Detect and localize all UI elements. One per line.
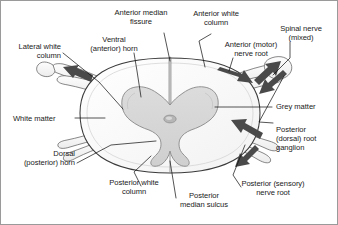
label-anterior-motor-nerve-root: Anterior (motor) nerve root	[225, 40, 277, 58]
label-posterior-root-ganglion: Posterior (dorsal) root ganglion	[276, 125, 316, 153]
label-posterior-sensory-nerve-root: Posterior (sensory) nerve root	[241, 179, 304, 197]
label-lateral-white-column: Lateral white column	[1, 42, 61, 60]
label-posterior-median-sulcus: Posterior median sulcus	[180, 191, 228, 209]
label-anterior-white-column: Anterior white column	[193, 9, 239, 27]
label-anterior-median-fissure: Anterior median fissure	[115, 8, 168, 26]
label-posterior-white-column: Posterior white column	[109, 178, 158, 196]
label-ventral-anterior-horn: Ventral (anterior) horn	[90, 35, 137, 53]
spinal-cord-diagram: Anterior median fissure Anterior white c…	[0, 0, 338, 225]
label-grey-matter: Grey matter	[276, 102, 316, 111]
label-dorsal-posterior-horn: Dorsal (posterior) horn	[1, 149, 75, 167]
label-white-matter: White matter	[13, 114, 55, 123]
label-spinal-nerve: Spinal nerve (mixed)	[280, 24, 322, 42]
